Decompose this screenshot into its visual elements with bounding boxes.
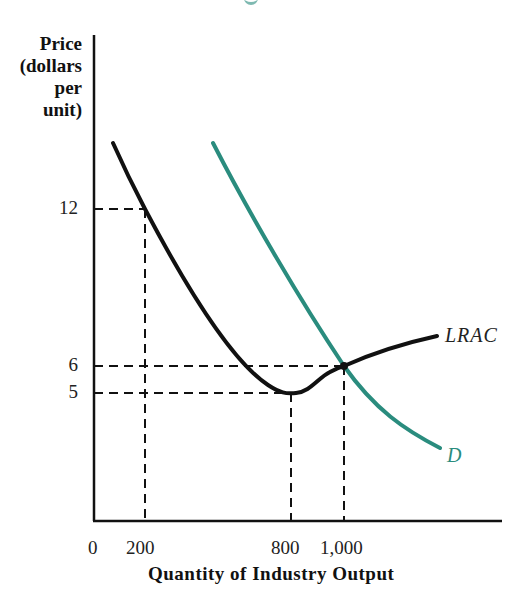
x-tick-800: 800 xyxy=(271,537,300,559)
y-axis-label-line: Price xyxy=(20,33,82,55)
dashed-guides xyxy=(94,209,344,521)
demand-label: D xyxy=(447,444,462,467)
x-tick-1000: 1,000 xyxy=(320,537,363,559)
y-axis-label-line: (dollars xyxy=(20,55,82,77)
lrac-label: LRAC xyxy=(445,324,498,347)
y-axis-label-line: per xyxy=(20,77,82,99)
x-tick-200: 200 xyxy=(126,537,155,559)
y-tick-5: 5 xyxy=(48,381,78,403)
chart-container: Price (dollars per unit) 12 6 5 0 200 80… xyxy=(0,0,522,595)
lrac-curve xyxy=(113,143,437,393)
y-axis-label: Price (dollars per unit) xyxy=(20,33,82,121)
y-tick-12: 12 xyxy=(48,197,78,219)
equilibrium-point xyxy=(340,362,348,370)
y-axis-label-line: unit) xyxy=(20,99,82,121)
x-axis-label: Quantity of Industry Output xyxy=(148,563,394,585)
y-tick-6: 6 xyxy=(48,354,78,376)
x-tick-0: 0 xyxy=(88,537,98,559)
demand-curve xyxy=(213,143,440,448)
